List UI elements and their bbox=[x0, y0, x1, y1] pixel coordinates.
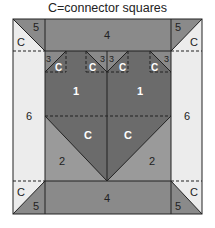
small-connector-2-label: C bbox=[89, 62, 96, 73]
unit-left-label: 1 bbox=[73, 85, 79, 97]
corner-bl-piece-label: 5 bbox=[33, 200, 39, 212]
corner-br-piece-label: 5 bbox=[175, 200, 181, 212]
top-band-label: 4 bbox=[104, 29, 110, 41]
small-piece-3-label: 3 bbox=[109, 54, 114, 64]
small-connector-4-label: C bbox=[151, 62, 158, 73]
small-connector-1-label: C bbox=[55, 62, 62, 73]
corner-tl-connector-label: C bbox=[17, 36, 25, 48]
corner-br-connector-label: C bbox=[190, 186, 198, 198]
center-connector-left-label: C bbox=[84, 129, 92, 141]
quilt-block-diagram: 4 4 5 C 5 C C 5 C 5 6 6 1 1 3 C 3 C 3 C … bbox=[0, 0, 215, 228]
unit-right-label: 1 bbox=[137, 85, 143, 97]
small-connector-3-label: C bbox=[119, 62, 126, 73]
corner-tl-piece-label: 5 bbox=[33, 21, 39, 33]
bottom-band-label: 4 bbox=[104, 192, 110, 204]
center-connector-right-label: C bbox=[124, 129, 132, 141]
side-right-label: 6 bbox=[184, 110, 190, 122]
lower-left-label: 2 bbox=[59, 155, 65, 167]
side-left-label: 6 bbox=[26, 110, 32, 122]
corner-tr-piece-label: 5 bbox=[175, 21, 181, 33]
corner-tr-connector-label: C bbox=[190, 36, 198, 48]
small-piece-4-label: 3 bbox=[164, 54, 169, 64]
small-piece-1-label: 3 bbox=[46, 54, 51, 64]
corner-bl-connector-label: C bbox=[17, 186, 25, 198]
small-piece-2-label: 3 bbox=[100, 54, 105, 64]
lower-right-label: 2 bbox=[149, 155, 155, 167]
